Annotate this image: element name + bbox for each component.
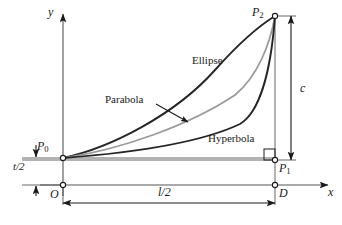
point-marker-D (272, 182, 277, 187)
curve-label-parabola: Parabola (105, 94, 143, 105)
point-marker-P2 (272, 13, 277, 18)
dimension-label-l-half: l/2 (158, 186, 171, 198)
curve-label-hyperbola: Hyperbola (208, 133, 254, 144)
point-label-D: D (279, 187, 288, 199)
curve-label-ellipse: Ellipse (192, 55, 223, 66)
origin-label: O (50, 188, 59, 200)
point-label-P2: P2 (252, 6, 264, 20)
dimension-label-t-half: t/2 (13, 161, 25, 172)
point-marker-O (60, 182, 65, 187)
conic-trajectory-diagram: y x O P0 P1 P2 D Ellipse Parabola Hyperb… (0, 0, 342, 225)
x-axis-label: x (328, 186, 333, 198)
point-label-P1-subscript: 1 (286, 166, 290, 176)
point-marker-P1 (272, 157, 277, 162)
point-label-P0: P0 (37, 140, 49, 154)
parabola-leader-arrow (156, 104, 188, 122)
point-label-P1: P1 (279, 162, 291, 176)
point-marker-P0 (60, 155, 65, 160)
y-axis-label: y (48, 6, 53, 18)
point-label-P2-subscript: 2 (259, 10, 263, 20)
dimension-label-c: c (300, 82, 305, 94)
point-label-P0-subscript: 0 (44, 144, 48, 154)
